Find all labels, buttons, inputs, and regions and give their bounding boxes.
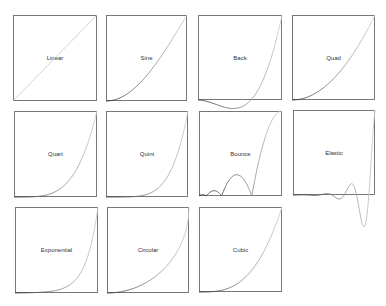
panel-exponential: Exponential [15, 207, 98, 293]
panel-label-cubic: Cubic [200, 247, 281, 253]
panel-linear: Linear [13, 15, 97, 101]
panel-label-elastic: Elastic [294, 150, 374, 156]
panel-quint: Quint [106, 111, 188, 197]
panel-label-exponential: Exponential [16, 247, 97, 253]
panel-label-circular: Circular [108, 247, 188, 253]
panel-sine: Sine [106, 15, 187, 101]
panel-label-quad: Quad [293, 55, 374, 61]
panel-circular: Circular [107, 207, 189, 293]
panel-quad: Quad [292, 15, 375, 100]
panel-back: Back [198, 15, 282, 100]
panel-label-linear: Linear [14, 55, 96, 61]
panel-elastic: Elastic [293, 110, 375, 195]
panel-cubic: Cubic [199, 207, 282, 292]
panel-label-quint: Quint [107, 151, 187, 157]
panel-label-back: Back [199, 55, 281, 61]
panel-label-bounce: Bounce [200, 151, 281, 157]
panel-bounce: Bounce [199, 111, 282, 196]
panel-label-quart: Quart [15, 151, 96, 157]
panel-quart: Quart [14, 111, 97, 197]
panel-label-sine: Sine [107, 55, 186, 61]
